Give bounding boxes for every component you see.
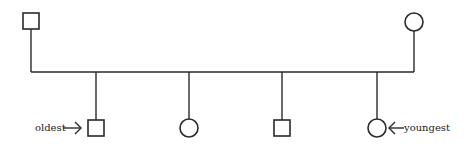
youngest-arrow-icon: [389, 122, 404, 134]
pedigree-chart: oldest youngest: [0, 0, 468, 146]
child-1-square: [88, 120, 104, 136]
child-2-circle: [180, 119, 198, 137]
youngest-label: youngest: [403, 122, 450, 133]
father-square: [23, 13, 39, 29]
mother-circle: [405, 13, 423, 31]
child-3-square: [274, 120, 290, 136]
oldest-label: oldest: [35, 122, 66, 133]
child-4-circle: [368, 119, 386, 137]
